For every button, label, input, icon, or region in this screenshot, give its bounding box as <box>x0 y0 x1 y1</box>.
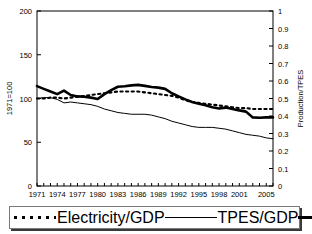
legend-swatch-production-tpes <box>298 216 312 220</box>
right-tick-label: 0.6 <box>278 77 288 86</box>
x-tick-label: 1989 <box>150 190 167 199</box>
x-tick-label: 1986 <box>130 190 147 199</box>
right-axis-title: Production/TPES <box>296 70 305 128</box>
left-tick-label: 50 <box>24 138 32 147</box>
legend-label-electricity-gdp: Electricity/GDP <box>57 209 165 227</box>
legend-swatch-tpes-gdp <box>165 217 217 219</box>
x-tick-label: 1998 <box>211 190 228 199</box>
x-tick-label: 1974 <box>49 190 66 199</box>
legend-swatch-electricity-gdp <box>14 216 56 219</box>
plot-frame <box>37 11 273 186</box>
right-tick-label: 0.7 <box>278 60 288 69</box>
left-tick-label: 150 <box>19 51 32 60</box>
x-tick-label: 1971 <box>29 190 46 199</box>
x-tick-label: 1992 <box>170 190 187 199</box>
right-axis-ticks: 00.10.20.30.40.50.60.70.80.91 <box>269 7 288 191</box>
legend-label-tpes-gdp: TPES/GDP <box>218 209 299 227</box>
right-tick-label: 0.4 <box>278 112 288 121</box>
x-tick-label: 1980 <box>89 190 106 199</box>
right-tick-label: 0.3 <box>278 130 288 139</box>
left-axis-title: 1971=100 <box>5 82 14 116</box>
right-tick-label: 0.8 <box>278 42 288 51</box>
left-tick-label: 100 <box>19 95 32 104</box>
right-tick-label: 0.2 <box>278 147 288 156</box>
x-tick-label: 2001 <box>231 190 248 199</box>
plot-border <box>37 11 273 186</box>
chart-legend: Electricity/GDP TPES/GDP Production/TPES <box>9 206 300 229</box>
x-tick-label: 1977 <box>69 190 86 199</box>
x-axis-ticks: 1971197419771980198319861989199219951998… <box>29 183 275 199</box>
legend-items: Electricity/GDP TPES/GDP Production/TPES <box>10 207 299 228</box>
x-tick-label: 1995 <box>190 190 207 199</box>
line-chart: 050100150200 00.10.20.30.40.50.60.70.80.… <box>0 0 312 200</box>
right-tick-label: 0.1 <box>278 165 288 174</box>
right-tick-label: 0.9 <box>278 25 288 34</box>
x-tick-label: 1983 <box>110 190 127 199</box>
chart-figure: 050100150200 00.10.20.30.40.50.60.70.80.… <box>0 0 312 234</box>
series-line-tpes-gdp <box>37 98 273 139</box>
data-series-group <box>37 85 273 139</box>
left-tick-label: 200 <box>19 7 32 16</box>
right-tick-label: 0.5 <box>278 95 288 104</box>
right-tick-label: 1 <box>278 7 282 16</box>
series-line-production-tpes <box>37 85 273 118</box>
x-tick-label: 2005 <box>258 190 275 199</box>
right-tick-label: 0 <box>278 182 282 191</box>
